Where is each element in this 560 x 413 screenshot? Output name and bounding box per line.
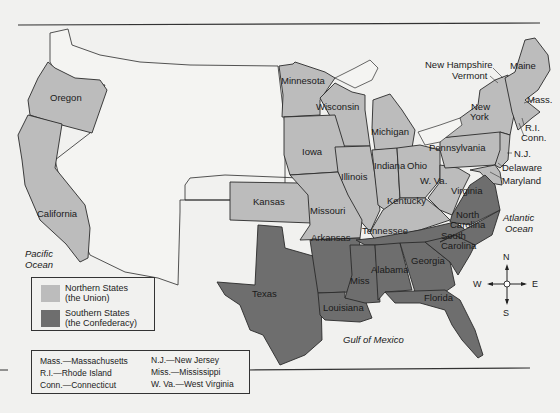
label-iowa: Iowa: [302, 147, 322, 157]
label-ohio: Ohio: [407, 161, 427, 171]
label-gulf: Gulf of Mexico: [343, 335, 404, 345]
compass-rose-icon: [487, 264, 527, 305]
label-florida: Florida: [424, 293, 453, 303]
compass-e: E: [532, 279, 538, 289]
label-georgia: Georgia: [411, 256, 445, 266]
label-nj: N.J.: [514, 149, 531, 159]
label-arkansas: Arkansas: [311, 233, 351, 243]
union-swatch: [41, 285, 60, 302]
abbr-conn: Conn.—Connecticut: [40, 380, 116, 390]
label-alabama: Alabama: [371, 265, 409, 275]
compass-w: W: [473, 279, 482, 289]
label-pacific-2: Ocean: [25, 260, 53, 270]
label-louisiana: Louisiana: [323, 303, 364, 313]
label-nc-2: Carolina: [450, 220, 485, 230]
label-vermont: Vermont: [452, 71, 487, 81]
label-wisconsin: Wisconsin: [316, 102, 359, 112]
label-wva: W. Va.: [420, 176, 447, 186]
abbr-nj: N.J.—New Jersey: [151, 355, 219, 365]
label-delaware: Delaware: [502, 163, 542, 173]
union-label-1: Northern States: [65, 283, 128, 294]
confederacy-label-2: (the Confederacy): [65, 318, 137, 329]
label-virginia: Virginia: [451, 186, 483, 196]
confederacy-swatch: [41, 310, 60, 327]
label-illinois: Illinois: [341, 172, 367, 182]
label-kentucky: Kentucky: [387, 196, 426, 206]
label-sc-2: Carolina: [441, 241, 476, 251]
label-michigan: Michigan: [371, 127, 409, 137]
label-pacific-1: Pacific: [25, 249, 53, 259]
label-maine: Maine: [510, 61, 536, 71]
label-missouri: Missouri: [310, 206, 345, 216]
compass-n: N: [503, 252, 510, 262]
abbr-wva: W. Va.—West Virginia: [151, 379, 234, 389]
label-maryland: Maryland: [502, 176, 541, 186]
confederacy-label-1: Southern States: [65, 308, 130, 319]
union-label-2: (the Union): [65, 293, 110, 304]
label-atlantic-2: Ocean: [505, 224, 533, 234]
abbr-ri: R.I.—Rhode Island: [40, 368, 112, 378]
compass-s: S: [503, 308, 509, 318]
label-conn: Conn.: [521, 133, 546, 143]
color-legend: Northern States (the Union) Southern Sta…: [31, 277, 155, 331]
label-minnesota: Minnesota: [281, 76, 325, 86]
label-mass: Mass.: [527, 95, 552, 105]
label-new-york-2: York: [470, 112, 489, 122]
abbreviation-key: Mass.—Massachusetts R.I.—Rhode Island Co…: [31, 350, 250, 394]
label-oregon: Oregon: [50, 93, 82, 103]
label-miss: Miss: [350, 276, 370, 286]
label-texas: Texas: [252, 289, 277, 299]
label-pennsylvania: Pennsylvania: [429, 143, 486, 153]
label-kansas: Kansas: [253, 197, 285, 207]
abbr-miss: Miss.—Mississippi: [151, 367, 220, 377]
label-california: California: [37, 209, 77, 219]
abbr-mass: Mass.—Massachusetts: [40, 356, 128, 366]
label-tennessee: Tennessee: [362, 226, 408, 236]
label-atlantic-1: Atlantic: [503, 213, 534, 223]
label-new-hampshire: New Hampshire: [425, 60, 493, 70]
label-indiana: Indiana: [374, 161, 405, 171]
